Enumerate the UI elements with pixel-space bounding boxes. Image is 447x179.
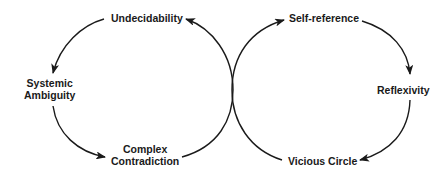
node-label: Reflexivity	[377, 84, 430, 96]
node-label-line1: Systemic	[24, 77, 75, 89]
arrow-complex-contradiction-to-undecidability	[182, 19, 233, 157]
arrow-systemic-ambiguity-to-complex-contradiction	[53, 106, 105, 157]
node-label-line2: Ambiguity	[24, 89, 75, 101]
node-self-reference: Self-reference	[288, 12, 360, 24]
arrow-undecidability-to-systemic-ambiguity	[53, 19, 104, 73]
node-label: Undecidability	[111, 12, 183, 24]
arrow-reflexivity-to-vicious-circle	[360, 100, 410, 160]
node-label: Vicious Circle	[288, 155, 357, 167]
arrow-vicious-circle-to-self-reference	[232, 20, 284, 160]
node-systemic-ambiguity: Systemic Ambiguity	[23, 77, 76, 101]
node-label-line1: Complex	[111, 143, 179, 155]
node-reflexivity: Reflexivity	[376, 84, 431, 96]
node-label-line2: Contradiction	[111, 155, 179, 167]
node-vicious-circle: Vicious Circle	[287, 155, 358, 167]
node-complex-contradiction: Complex Contradiction	[110, 143, 180, 167]
node-undecidability: Undecidability	[110, 12, 184, 24]
arrow-self-reference-to-reflexivity	[362, 21, 410, 74]
node-label: Self-reference	[289, 12, 359, 24]
